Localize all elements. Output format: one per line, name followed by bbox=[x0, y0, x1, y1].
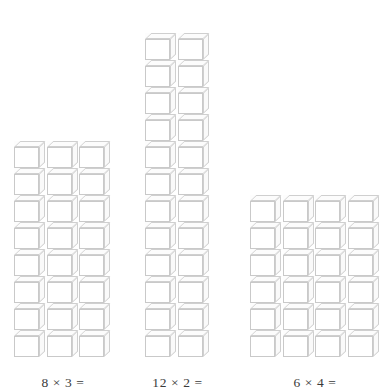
cube bbox=[145, 249, 178, 276]
cube bbox=[178, 330, 211, 357]
cube bbox=[145, 60, 178, 87]
cube-row bbox=[250, 249, 380, 276]
cube-right-face bbox=[203, 93, 209, 114]
cube-front-face bbox=[145, 201, 170, 222]
cube bbox=[250, 195, 283, 222]
cube-right-face bbox=[170, 93, 176, 114]
cube-right-face bbox=[72, 282, 78, 303]
cube-row bbox=[145, 168, 210, 195]
cube bbox=[14, 330, 47, 357]
cube-row bbox=[145, 87, 210, 114]
cube bbox=[348, 303, 381, 330]
cube-right-face bbox=[72, 174, 78, 195]
cube-row bbox=[14, 276, 112, 303]
cube bbox=[250, 249, 283, 276]
cube-front-face bbox=[178, 174, 203, 195]
cube-front-face bbox=[145, 309, 170, 330]
cube-front-face bbox=[79, 147, 104, 168]
cube bbox=[315, 303, 348, 330]
cube bbox=[315, 276, 348, 303]
cube-row bbox=[14, 303, 112, 330]
cube bbox=[178, 33, 211, 60]
cube-right-face bbox=[72, 228, 78, 249]
cube-front-face bbox=[79, 228, 104, 249]
cube-right-face bbox=[170, 147, 176, 168]
cube bbox=[178, 168, 211, 195]
cube bbox=[315, 330, 348, 357]
cube-front-face bbox=[250, 228, 275, 249]
cube bbox=[348, 330, 381, 357]
cube-front-face bbox=[79, 336, 104, 357]
cube-front-face bbox=[178, 120, 203, 141]
cube-group: 6 × 4 = bbox=[250, 195, 380, 391]
cube-front-face bbox=[145, 66, 170, 87]
cube-right-face bbox=[170, 66, 176, 87]
cube-front-face bbox=[79, 282, 104, 303]
cube-right-face bbox=[275, 282, 281, 303]
cube-right-face bbox=[104, 147, 110, 168]
cube bbox=[79, 222, 112, 249]
cube-right-face bbox=[104, 228, 110, 249]
cube-front-face bbox=[315, 282, 340, 303]
cube bbox=[178, 87, 211, 114]
cube-right-face bbox=[373, 282, 379, 303]
cube bbox=[14, 195, 47, 222]
cube-front-face bbox=[283, 336, 308, 357]
cube bbox=[348, 276, 381, 303]
cube bbox=[47, 168, 80, 195]
cube-front-face bbox=[79, 174, 104, 195]
cube-row bbox=[14, 195, 112, 222]
cube-right-face bbox=[340, 255, 346, 276]
cube bbox=[47, 222, 80, 249]
cube-right-face bbox=[104, 309, 110, 330]
cube-front-face bbox=[315, 255, 340, 276]
cube-front-face bbox=[178, 282, 203, 303]
cube-front-face bbox=[348, 228, 373, 249]
cube-front-face bbox=[14, 228, 39, 249]
cube-row bbox=[250, 222, 380, 249]
cube-row bbox=[14, 330, 112, 357]
cube-front-face bbox=[178, 147, 203, 168]
cube-group: 8 × 3 = bbox=[14, 141, 112, 391]
cube bbox=[145, 330, 178, 357]
cube-right-face bbox=[203, 147, 209, 168]
cube-row bbox=[145, 330, 210, 357]
cube bbox=[178, 249, 211, 276]
cube bbox=[315, 222, 348, 249]
cube-right-face bbox=[39, 228, 45, 249]
cube-row bbox=[145, 141, 210, 168]
cube-right-face bbox=[170, 336, 176, 357]
cube bbox=[348, 195, 381, 222]
cube bbox=[79, 249, 112, 276]
cube-right-face bbox=[308, 309, 314, 330]
cube-front-face bbox=[145, 147, 170, 168]
cube bbox=[315, 249, 348, 276]
cube-right-face bbox=[39, 201, 45, 222]
cube-front-face bbox=[283, 309, 308, 330]
cube bbox=[250, 222, 283, 249]
cube-front-face bbox=[47, 147, 72, 168]
cube bbox=[79, 168, 112, 195]
cube-row bbox=[145, 303, 210, 330]
cube bbox=[14, 222, 47, 249]
cube-right-face bbox=[72, 201, 78, 222]
cube-front-face bbox=[348, 255, 373, 276]
cube-front-face bbox=[14, 174, 39, 195]
cube-right-face bbox=[203, 120, 209, 141]
cube-front-face bbox=[348, 309, 373, 330]
cube bbox=[47, 195, 80, 222]
cube bbox=[145, 195, 178, 222]
cube-front-face bbox=[14, 282, 39, 303]
cube-right-face bbox=[170, 228, 176, 249]
cube-right-face bbox=[275, 336, 281, 357]
cube-right-face bbox=[170, 255, 176, 276]
cube bbox=[14, 141, 47, 168]
cube-right-face bbox=[203, 228, 209, 249]
cube-stack bbox=[14, 141, 112, 357]
cube-front-face bbox=[250, 309, 275, 330]
cube-right-face bbox=[39, 255, 45, 276]
cube-row bbox=[14, 168, 112, 195]
cube-row bbox=[14, 141, 112, 168]
cube-right-face bbox=[203, 66, 209, 87]
cube-front-face bbox=[178, 228, 203, 249]
